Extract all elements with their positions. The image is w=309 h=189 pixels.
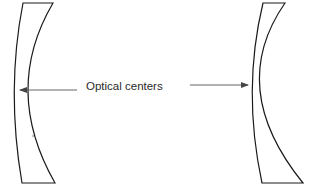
optical-centers-label: Optical centers [86, 80, 163, 92]
speck-dot [32, 135, 33, 136]
right-lens [252, 3, 303, 183]
left-lens [14, 3, 55, 183]
diagram-canvas: Optical centers [0, 0, 309, 189]
diagram-graphics [0, 0, 309, 189]
